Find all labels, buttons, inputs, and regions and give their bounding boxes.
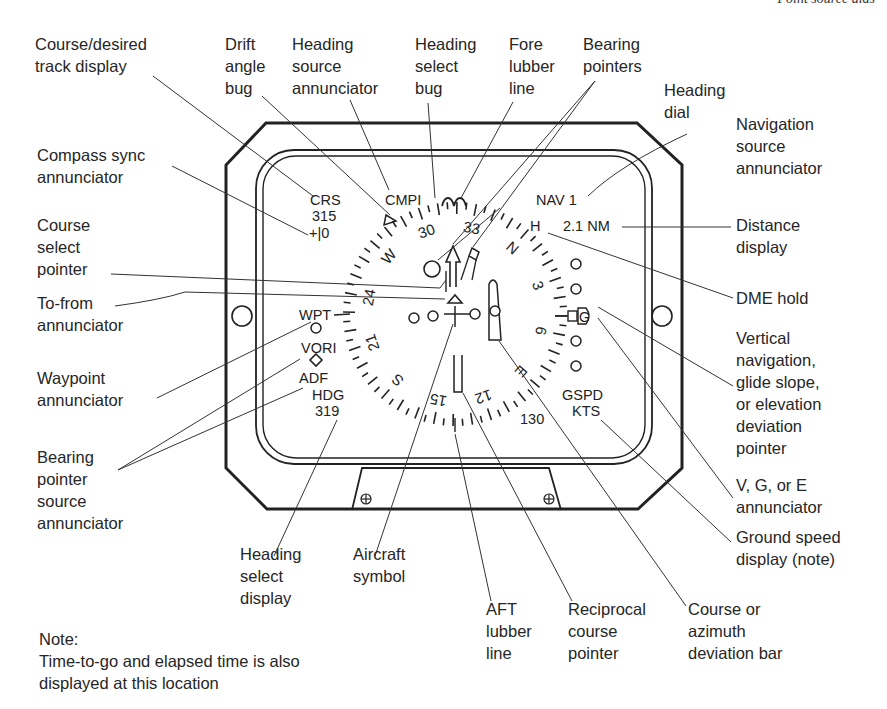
callout-ground-speed: Ground speed display (note) (736, 526, 841, 570)
callout-heading-select-display: Heading select display (240, 543, 301, 609)
dme-hold: H (530, 218, 540, 234)
to-from-triangle-icon (448, 295, 462, 303)
note-title: Note: (39, 628, 78, 650)
bottom-panel (352, 468, 561, 510)
dial-label: N (503, 238, 522, 258)
bearing-pointer-circle-icon (424, 261, 440, 277)
adf-annunciator: ADF (299, 370, 328, 386)
callout-dme-hold: DME hold (736, 287, 808, 309)
mount-hole-left (232, 306, 252, 326)
crs-value: 315 (312, 208, 336, 224)
lateral-deviation-dots (409, 309, 480, 323)
distance-display: 2.1 NM (563, 218, 610, 234)
dial-label: 30 (416, 220, 437, 242)
callout-heading-source: Heading source annunciator (292, 33, 378, 99)
wpt-annunciator: WPT (299, 307, 331, 323)
callout-vertical-nav: Vertical navigation, glide slope, or ele… (736, 327, 821, 459)
heading-source-annunciator: CMPI (385, 192, 421, 208)
gspd-units: KTS (572, 403, 600, 419)
aircraft-symbol-icon (444, 306, 470, 327)
crs-label: CRS (310, 192, 341, 208)
callout-bearing-source: Bearing pointer source annunciator (37, 446, 123, 534)
waypoint-annunciator-icon (311, 323, 321, 333)
screw-left-icon (361, 494, 371, 504)
dial-label: E (512, 362, 531, 381)
callout-aft-lubber: AFT lubber line (486, 598, 532, 664)
dial-label: 33 (462, 218, 482, 238)
heading-select-bug-icon (442, 198, 466, 206)
dial-label: 21 (361, 332, 383, 353)
screw-right-icon (544, 494, 554, 504)
dial-label: 15 (428, 390, 448, 410)
callout-waypoint: Waypoint annunciator (37, 367, 123, 411)
compass-sync-annunciator: +|0 (309, 225, 329, 241)
callout-nav-source: Navigation source annunciator (736, 113, 822, 179)
hdg-label: HDG (312, 387, 344, 403)
callout-compass-sync: Compass sync annunciator (37, 144, 145, 188)
callout-deviation-bar: Course or azimuth deviation bar (688, 598, 782, 664)
dial-label: W (378, 245, 401, 267)
callout-aircraft-symbol: Aircraft symbol (353, 543, 405, 587)
reciprocal-course-pointer-icon (454, 355, 462, 392)
bearing-pointer-diamond-icon (469, 248, 479, 260)
callout-to-from: To-from annunciator (37, 292, 123, 336)
callout-fore-lubber: Fore lubber line (509, 33, 555, 99)
ground-speed-value: 130 (520, 411, 544, 427)
callout-bearing-pointers: Bearing pointers (583, 33, 642, 77)
vge-pointer-icon (568, 311, 577, 321)
dial-label: 12 (473, 386, 494, 408)
dial-label: 6 (532, 325, 550, 336)
navigation-source-annunciator: NAV 1 (536, 192, 577, 208)
callout-reciprocal-course: Reciprocal course pointer (568, 598, 646, 664)
callout-drift-bug: Drift angle bug (225, 33, 265, 99)
callout-heading-select-bug: Heading select bug (415, 33, 476, 99)
dial-label: 3 (529, 279, 548, 292)
hdg-select-display: 319 (315, 403, 339, 419)
dial-label: S (388, 371, 407, 390)
vge-letter: G (579, 309, 590, 325)
callout-vge: V, G, or E annunciator (736, 474, 822, 518)
note-text: Time-to-go and elapsed time is also disp… (39, 650, 300, 694)
callout-heading-dial: Heading dial (664, 79, 725, 123)
callout-distance-display: Distance display (736, 214, 800, 258)
mount-hole-right (652, 306, 672, 326)
gspd-label: GSPD (562, 387, 603, 403)
vori-annunciator: VORI (301, 340, 336, 356)
callout-course-display: Course/desired track display (35, 33, 147, 77)
callout-course-select: Course select pointer (37, 214, 90, 280)
